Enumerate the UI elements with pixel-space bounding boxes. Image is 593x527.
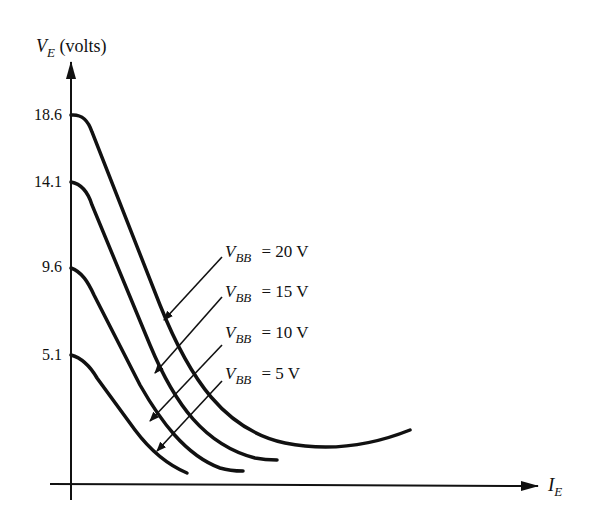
- legend-value: = 10 V: [262, 323, 309, 342]
- y-axis-label: VE (volts): [36, 37, 106, 55]
- chart-canvas: [0, 0, 593, 527]
- legend-vbb-5: VBB = 5 V: [225, 365, 300, 382]
- y-tick-5-1: 5.1: [12, 347, 62, 363]
- legend-vbb-10: VBB = 10 V: [225, 324, 309, 341]
- arrow-vbb-20: [164, 257, 222, 320]
- legend-vbb-15: VBB = 15 V: [225, 283, 309, 300]
- y-tick-9-6: 9.6: [12, 259, 62, 275]
- legend-sub: BB: [235, 331, 251, 346]
- legend-value: = 5 V: [262, 364, 301, 383]
- legend-var: V: [225, 282, 235, 301]
- y-axis-unit: (volts): [59, 36, 106, 56]
- y-axis-sub: E: [47, 45, 55, 60]
- legend-var: V: [225, 242, 235, 261]
- legend-sub: BB: [235, 290, 251, 305]
- legend-value: = 20 V: [262, 242, 309, 261]
- y-tick-14-1: 14.1: [12, 174, 62, 190]
- curve-vbb-15: [71, 182, 277, 460]
- arrow-vbb-5: [157, 381, 222, 451]
- legend-var: V: [225, 323, 235, 342]
- legend-vbb-20: VBB = 20 V: [225, 243, 309, 260]
- y-axis-var: V: [36, 36, 47, 56]
- curve-vbb-5: [71, 355, 187, 473]
- legend-var: V: [225, 364, 235, 383]
- x-axis-label: IE: [548, 475, 562, 494]
- x-axis: [50, 484, 538, 486]
- y-tick-18-6: 18.6: [12, 107, 62, 123]
- legend-value: = 15 V: [262, 282, 309, 301]
- legend-sub: BB: [235, 372, 251, 387]
- legend-sub: BB: [235, 250, 251, 265]
- x-axis-sub: E: [554, 484, 562, 499]
